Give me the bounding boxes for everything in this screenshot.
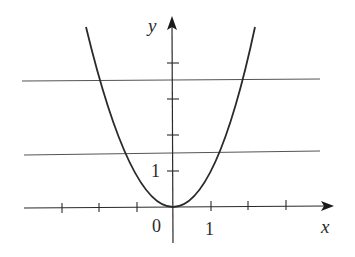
parabola-curve	[86, 27, 255, 207]
y-axis-label: y	[146, 15, 157, 36]
x-tick-label-1: 1	[205, 219, 214, 239]
y-tick-label-1: 1	[151, 161, 160, 181]
origin-label: 0	[152, 216, 161, 236]
x-axis-label: x	[320, 216, 330, 237]
y-axis	[172, 24, 173, 243]
parabola-chart: y x 0 1 1	[0, 0, 355, 257]
upper-horizontal-line	[22, 79, 320, 81]
